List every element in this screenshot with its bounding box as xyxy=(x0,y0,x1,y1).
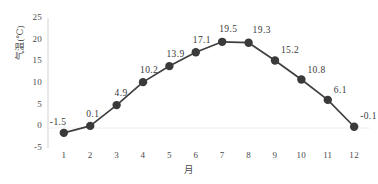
x-tick-label: 11 xyxy=(316,150,340,160)
data-point-label: 19.3 xyxy=(253,25,271,35)
data-point-label: 10.8 xyxy=(307,65,325,75)
data-point-label: 13.9 xyxy=(166,49,184,59)
x-tick-label: 7 xyxy=(210,150,234,160)
data-point-marker xyxy=(192,48,200,56)
x-tick-label: 5 xyxy=(157,150,181,160)
x-tick-label: 9 xyxy=(263,150,287,160)
data-point-label: -1.5 xyxy=(50,117,67,127)
data-point-marker xyxy=(218,38,226,46)
temperature-series-markers xyxy=(60,38,359,137)
x-tick-label: 1 xyxy=(52,150,76,160)
x-tick-label: 6 xyxy=(184,150,208,160)
data-point-label: 6.1 xyxy=(334,85,347,95)
data-point-marker xyxy=(324,96,332,104)
y-axis-title: 气温(℃) xyxy=(13,46,26,60)
x-axis-title: 月 xyxy=(0,162,378,176)
data-point-marker xyxy=(165,62,173,70)
x-tick-label: 4 xyxy=(131,150,155,160)
x-tick-label: 12 xyxy=(342,150,366,160)
data-point-marker xyxy=(350,123,358,131)
data-point-label: -0.1 xyxy=(360,111,377,121)
data-point-label: 17.1 xyxy=(193,35,211,45)
data-point-label: 0.1 xyxy=(86,109,99,119)
data-point-label: 15.2 xyxy=(281,45,299,55)
data-point-marker xyxy=(139,78,147,86)
x-tick-label: 8 xyxy=(237,150,261,160)
data-point-label: 4.9 xyxy=(115,88,128,98)
data-point-label: 19.5 xyxy=(219,24,237,34)
data-point-marker xyxy=(297,75,305,83)
x-tick-label: 2 xyxy=(78,150,102,160)
data-point-marker xyxy=(244,39,252,47)
y-tick-label: -5 xyxy=(20,142,42,152)
temperature-line-chart: -50510152025 123456789101112 -1.50.14.91… xyxy=(0,0,378,184)
y-tick-label: 10 xyxy=(20,77,42,87)
x-tick-label: 10 xyxy=(289,150,313,160)
temperature-series-line xyxy=(64,42,354,133)
y-tick-label: 25 xyxy=(20,12,42,22)
data-point-marker xyxy=(112,101,120,109)
data-point-label: 10.2 xyxy=(140,65,158,75)
x-tick-label: 3 xyxy=(105,150,129,160)
y-tick-label: 5 xyxy=(20,99,42,109)
y-tick-label: 0 xyxy=(20,120,42,130)
data-point-marker xyxy=(60,129,68,137)
data-point-marker xyxy=(86,122,94,130)
data-point-marker xyxy=(271,56,279,64)
